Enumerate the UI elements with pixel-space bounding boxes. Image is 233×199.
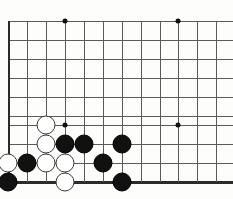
grid-line-horizontal-2 <box>8 59 233 60</box>
grid-line-vertical-7 <box>141 21 142 182</box>
star-point-upper-right <box>176 19 181 24</box>
stone-white-4 <box>37 154 56 173</box>
stone-white-3 <box>0 154 18 173</box>
stone-white-1 <box>37 116 56 135</box>
grid-line-vertical-10 <box>197 21 198 182</box>
stone-white-2 <box>37 135 56 154</box>
stone-black-2 <box>75 135 94 154</box>
star-point-lower-right <box>176 123 181 128</box>
stone-white-5 <box>56 154 75 173</box>
star-point-upper-left <box>63 19 68 24</box>
go-board-diagram <box>0 0 233 199</box>
grid-line-vertical-6 <box>122 21 123 182</box>
stone-black-3 <box>113 135 132 154</box>
grid-line-horizontal-3 <box>8 78 233 79</box>
grid-line-horizontal-0 <box>8 21 233 22</box>
stone-black-5 <box>94 154 113 173</box>
stone-black-1 <box>56 135 75 154</box>
grid-line-vertical-9 <box>178 21 179 182</box>
grid-line-vertical-4 <box>84 21 85 182</box>
stone-black-6 <box>0 173 18 192</box>
grid-line-horizontal-4 <box>8 97 233 98</box>
stone-black-7 <box>113 173 132 192</box>
stone-white-6 <box>56 173 75 192</box>
grid-line-vertical-11 <box>216 21 217 182</box>
stone-black-4 <box>18 154 37 173</box>
star-point-lower-left <box>63 123 68 128</box>
grid-line-horizontal-1 <box>8 40 233 41</box>
grid-line-vertical-8 <box>160 21 161 182</box>
